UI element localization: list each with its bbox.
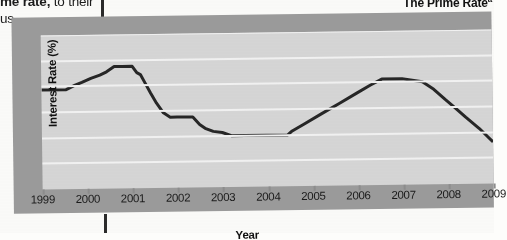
x-tick-2006: [358, 185, 360, 190]
x-tick-label-2007: 2007: [391, 189, 416, 201]
chart-figure: 02.04.06.08.010.012.0 199920002001200220…: [0, 16, 494, 216]
x-tick-label-2000: 2000: [76, 193, 101, 205]
plot-area: [41, 30, 494, 190]
x-tick-2005: [313, 186, 315, 191]
x-tick-label-2001: 2001: [121, 192, 146, 204]
x-tick-label-2008: 2008: [436, 188, 461, 200]
x-tick-label-2006: 2006: [346, 189, 371, 201]
x-tick-label-2002: 2002: [166, 192, 191, 204]
x-tick-2007: [403, 185, 405, 190]
body-text-line-1: me rate, to their: [0, 0, 93, 9]
x-tick-2000: [88, 189, 90, 194]
body-text-bold-fragment: me rate,: [0, 0, 50, 9]
figure-title: The Prime Ratea: [403, 0, 492, 10]
x-tick-2002: [178, 188, 180, 193]
y-axis-title: Interest Rate (%): [45, 23, 59, 143]
x-tick-2008: [449, 184, 451, 189]
x-tick-2009: [494, 184, 496, 189]
x-tick-1999: [43, 189, 45, 194]
figure-title-text: The Prime Rate: [403, 0, 488, 10]
x-tick-2004: [268, 186, 270, 191]
x-tick-label-2005: 2005: [301, 190, 326, 202]
x-tick-label-2004: 2004: [256, 190, 281, 202]
x-tick-label-2003: 2003: [211, 191, 236, 203]
x-axis-title: Year: [0, 226, 494, 240]
x-tick-label-2009: 2009: [481, 187, 506, 199]
x-tick-2003: [223, 187, 225, 192]
body-text-regular-fragment: to their: [50, 0, 93, 9]
x-tick-2001: [133, 188, 135, 193]
figure-title-footnote-marker: a: [488, 0, 492, 4]
chart-skew-group: 02.04.06.08.010.012.0 199920002001200220…: [0, 10, 494, 216]
x-tick-label-1999: 1999: [31, 193, 56, 205]
